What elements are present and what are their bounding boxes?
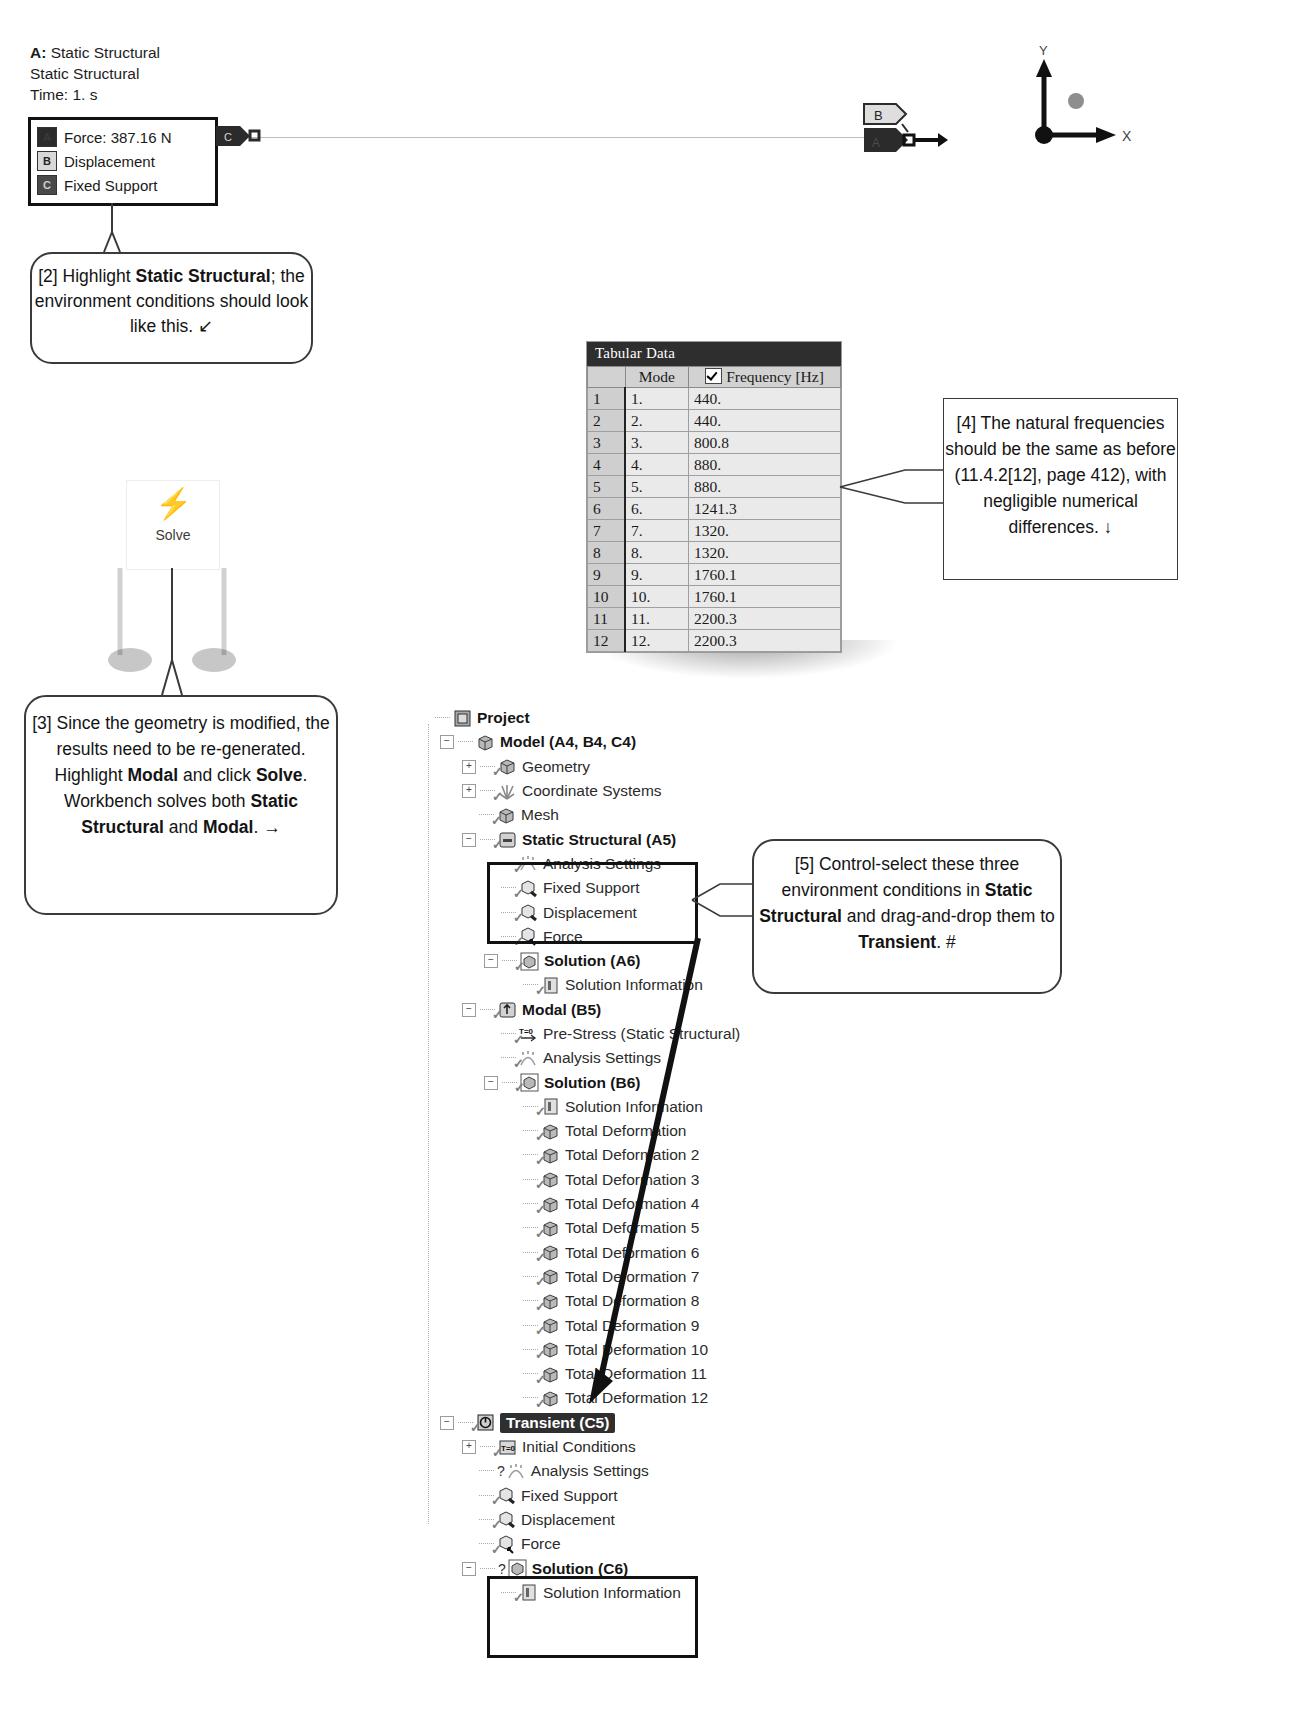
tree-node[interactable]: −✓Modal (B5) (418, 998, 740, 1022)
expand-toggle[interactable]: + (462, 784, 476, 798)
tree-node[interactable]: ✓Total Deformation 12 (418, 1386, 740, 1410)
table-row[interactable]: 55.880. (588, 476, 841, 498)
tree-node[interactable]: ✓Total Deformation 10 (418, 1338, 740, 1362)
checkmark-icon: ✓ (513, 1056, 524, 1071)
table-row[interactable]: 1212.2200.3 (588, 630, 841, 652)
solve-button[interactable]: ⚡ Solve (126, 480, 220, 570)
checkmark-icon: ✓ (535, 1396, 546, 1411)
callout-step-3-text: [3] Since the geometry is modified, the … (26, 710, 336, 840)
table-header-row: Mode Frequency [Hz] (588, 367, 841, 388)
tree-node[interactable]: ✓Total Deformation 7 (418, 1265, 740, 1289)
table-row[interactable]: 33.800.8 (588, 432, 841, 454)
collapse-toggle[interactable]: − (484, 1076, 498, 1090)
tree-node[interactable]: +T=0✓Initial Conditions (418, 1435, 740, 1459)
coordinate-triad: Y X (1020, 45, 1150, 155)
tree-node-label: Total Deformation 4 (565, 1195, 699, 1213)
tree-node[interactable]: −✓Static Structural (A5) (418, 827, 740, 851)
deformation-icon: ✓ (541, 1267, 560, 1286)
collapse-toggle[interactable]: − (462, 1003, 476, 1017)
table-row[interactable]: 66.1241.3 (588, 498, 841, 520)
legend-badge-c: C (37, 175, 57, 195)
table-row[interactable]: 1111.2200.3 (588, 608, 841, 630)
tree-node[interactable]: ✓Total Deformation 9 (418, 1313, 740, 1337)
tree-node[interactable]: ✓Total Deformation 8 (418, 1289, 740, 1313)
tree-node[interactable]: T=0✓Pre-Stress (Static Structural) (418, 1022, 740, 1046)
tree-node[interactable]: ✓Displacement (418, 1508, 740, 1532)
tree-node[interactable]: −✓Solution (B6) (418, 1070, 740, 1094)
table-row[interactable]: 88.1320. (588, 542, 841, 564)
checkmark-icon: ✓ (535, 1323, 546, 1338)
beam-centerline (236, 137, 866, 138)
callout-step-3: [3] Since the geometry is modified, the … (24, 695, 338, 915)
frequency-checkbox[interactable] (705, 368, 722, 384)
legend-item-fixed-support: C Fixed Support (37, 173, 209, 197)
table-row[interactable]: 1010.1760.1 (588, 586, 841, 608)
analysis-legend-title: A: Static Structural Static Structural T… (30, 42, 160, 105)
expand-toggle[interactable]: + (462, 1440, 476, 1454)
solution-icon: ✓ (520, 952, 539, 971)
tree-node[interactable]: −✓Solution (A6) (418, 949, 740, 973)
tree-node[interactable]: ✓Fixed Support (418, 1484, 740, 1508)
tree-node[interactable]: ✓Analysis Settings (418, 1046, 740, 1070)
checkmark-icon: ✓ (492, 789, 503, 804)
table-row[interactable]: 99.1760.1 (588, 564, 841, 586)
col-header-frequency-label: Frequency [Hz] (726, 368, 824, 385)
tree-node[interactable]: ✓Force (418, 1532, 740, 1556)
table-row[interactable]: 11.440. (588, 388, 841, 410)
solve-button-label: Solve (127, 527, 219, 543)
tree-node-label: Total Deformation 5 (565, 1219, 699, 1237)
tree-node-label: Pre-Stress (Static Structural) (543, 1025, 740, 1043)
tree-node[interactable]: Project (418, 706, 740, 730)
settings-icon: ✓ (519, 1049, 538, 1068)
checkmark-icon: ✓ (535, 1274, 546, 1289)
tree-node[interactable]: +✓Geometry (418, 755, 740, 779)
solve-lightning-icon: ⚡ (127, 481, 219, 527)
collapse-toggle[interactable]: − (484, 954, 498, 968)
tree-node[interactable]: −Model (A4, B4, C4) (418, 730, 740, 754)
checkmark-icon: ✓ (535, 1226, 546, 1241)
tree-node[interactable]: ✓Solution Information (418, 973, 740, 997)
collapse-toggle[interactable]: − (462, 1562, 476, 1576)
prestress-icon: T=0✓ (519, 1025, 538, 1044)
collapse-toggle[interactable]: − (440, 735, 454, 749)
analysis-icon: ✓ (498, 830, 517, 849)
pending-status-icon: ? (497, 1463, 505, 1479)
info-icon: ✓ (541, 976, 560, 995)
cell-mode: 7. (625, 520, 689, 542)
collapse-toggle[interactable]: − (440, 1416, 454, 1430)
tree-node[interactable]: ✓Total Deformation (418, 1119, 740, 1143)
tree-node[interactable]: ✓Total Deformation 5 (418, 1216, 740, 1240)
checkmark-icon: ✓ (492, 764, 503, 779)
tree-node-label-selected: Transient (C5) (500, 1413, 615, 1433)
tree-node[interactable]: ✓Solution Information (418, 1095, 740, 1119)
checkmark-icon: ✓ (535, 1250, 546, 1265)
tree-node[interactable]: ✓Total Deformation 6 (418, 1241, 740, 1265)
cell-index: 6 (588, 498, 626, 520)
deformation-icon: ✓ (541, 1316, 560, 1335)
tree-node[interactable]: +✓Coordinate Systems (418, 779, 740, 803)
tree-node[interactable]: ✓Total Deformation 3 (418, 1168, 740, 1192)
cell-index: 1 (588, 388, 626, 410)
tree-node-label: Total Deformation 2 (565, 1146, 699, 1164)
cell-frequency: 2200.3 (689, 630, 841, 652)
tree-node-label: Solution (A6) (544, 952, 640, 970)
tree-node[interactable]: ✓Mesh (418, 803, 740, 827)
tree-node[interactable]: ?Analysis Settings (418, 1459, 740, 1483)
table-row[interactable]: 22.440. (588, 410, 841, 432)
legend-label-fixed-support: Fixed Support (64, 177, 157, 194)
checkmark-icon: ✓ (514, 959, 525, 974)
tree-node[interactable]: ✓Total Deformation 2 (418, 1143, 740, 1167)
tree-node-label: Coordinate Systems (522, 782, 662, 800)
expand-toggle[interactable]: + (462, 760, 476, 774)
environment-conditions-legend: A Force: 387.16 N B Displacement C Fixed… (28, 117, 218, 206)
table-row[interactable]: 44.880. (588, 454, 841, 476)
tree-node[interactable]: ✓Total Deformation 11 (418, 1362, 740, 1386)
deformation-icon: ✓ (541, 1219, 560, 1238)
pending-status-icon: ? (498, 1561, 506, 1577)
col-header-mode: Mode (625, 367, 689, 388)
table-row[interactable]: 77.1320. (588, 520, 841, 542)
tree-node[interactable]: ✓Total Deformation 4 (418, 1192, 740, 1216)
tree-node[interactable]: −✓Transient (C5) (418, 1411, 740, 1435)
tree-node-label: Total Deformation 11 (565, 1365, 707, 1383)
collapse-toggle[interactable]: − (462, 833, 476, 847)
